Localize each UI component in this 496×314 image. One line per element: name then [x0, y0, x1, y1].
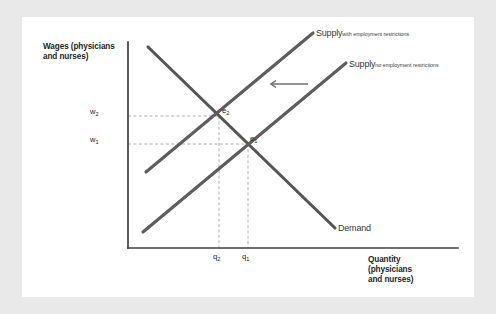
x-axis-title-line3: and nurses): [368, 275, 413, 285]
x-axis-title: Quantity (physicians and nurses): [368, 255, 413, 285]
equilibrium-label-e1: e1: [250, 134, 258, 145]
demand-label: Demand: [338, 223, 371, 234]
supply-unrestricted-label-qualifier: no employment restrictions: [375, 62, 438, 68]
y-axis-title: Wages (physicians and nurses): [43, 42, 115, 62]
demand-curve: [148, 47, 335, 228]
supply-restricted-label-qualifier: with employment restrictions: [342, 31, 409, 37]
chart-stage: Wages (physicians and nurses) Quantity (…: [22, 17, 474, 297]
tick-label-q1-sub: 1: [246, 256, 249, 262]
supply-restricted-label: Supplywith employment restrictions: [316, 28, 409, 39]
supply-restricted-curve: [146, 33, 313, 172]
shift-arrow-icon: [271, 81, 308, 88]
y-axis-title-line2: and nurses): [43, 52, 115, 62]
tick-label-q1: q1: [242, 252, 249, 263]
y-axis-title-line1: Wages (physicians: [43, 42, 115, 52]
equilibrium-label-e2: e2: [222, 106, 230, 117]
tick-label-w2: w2: [90, 107, 99, 118]
supply-unrestricted-label-name: Supply: [349, 59, 375, 69]
figure-card: Wages (physicians and nurses) Quantity (…: [22, 17, 474, 297]
x-axis-title-line1: Quantity: [368, 255, 413, 265]
equilibrium-label-e1-sub: 1: [254, 138, 257, 144]
supply-unrestricted-label: Supplyno employment restrictions: [349, 59, 439, 70]
tick-label-q2-sub: 2: [217, 256, 220, 262]
tick-label-w1-sub: 1: [95, 139, 98, 145]
x-axis-title-line2: (physicians: [368, 265, 413, 275]
tick-label-w1: w1: [90, 135, 99, 146]
tick-label-q2: q2: [213, 252, 220, 263]
tick-label-w2-sub: 2: [95, 111, 98, 117]
supply-restricted-label-name: Supply: [316, 28, 342, 38]
equilibrium-label-e2-sub: 2: [226, 110, 229, 116]
